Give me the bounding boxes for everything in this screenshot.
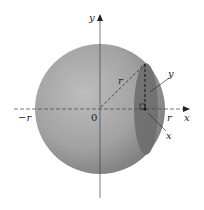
x-axis-label: x bbox=[184, 112, 190, 123]
neg-r-label: −r bbox=[18, 112, 32, 123]
pos-r-label: r bbox=[167, 112, 173, 123]
slice-center-dot bbox=[144, 108, 147, 111]
origin-label: 0 bbox=[91, 112, 97, 123]
slice-y-label: y bbox=[167, 68, 174, 79]
sphere-diagram: y x 0 −r r r y x bbox=[0, 0, 204, 210]
y-axis-arrow-icon bbox=[97, 14, 103, 21]
y-axis-label: y bbox=[88, 12, 95, 23]
slice-x-label: x bbox=[166, 130, 172, 141]
